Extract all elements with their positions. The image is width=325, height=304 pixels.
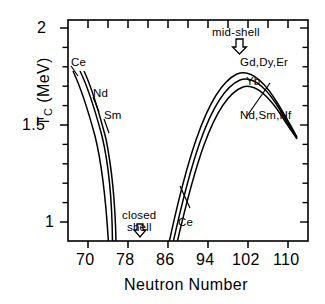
curve-label-yb: Yb [246,76,260,88]
mid-shell-arrow-icon [233,39,247,54]
x-tick-label-110: 110 [273,252,299,268]
curve-label-nd-sm-hf: Nd,Sm,Hf [240,110,291,122]
y-axis-title: TC (MeV) [17,45,41,155]
curve-label-nd-left: Nd [93,88,108,100]
x-tick-label-70: 70 [76,252,94,268]
annotation-closed-shell-line2: shell [127,222,152,234]
annotation-mid-shell: mid-shell [212,27,260,39]
curve-label-ce-right: Ce [178,217,193,229]
annotation-closed-shell-line1: closed [122,210,156,222]
figure-root: 2 1.5 1 70 78 86 94 102 110 Neutron Numb… [0,0,325,304]
x-tick-label-102: 102 [232,252,260,268]
y-axis-title-base: T [35,116,52,126]
y-axis-title-subscript: C [42,108,54,116]
y-tick-label-2: 2 [37,20,46,36]
curve-label-ce-left: Ce [71,57,86,69]
x-axis-major-ticks [88,241,288,248]
y-axis-title-unit: (MeV) [35,57,52,107]
x-axis-title: Neutron Number [124,277,248,293]
x-tick-label-86: 86 [156,252,174,268]
x-tick-label-78: 78 [116,252,134,268]
curve-label-sm-left: Sm [104,110,122,122]
y-axis-right-ticks [300,28,308,222]
x-tick-label-94: 94 [196,252,214,268]
curve-label-gd-dy-er: Gd,Dy,Er [240,57,288,69]
y-tick-label-1: 1 [45,214,54,230]
